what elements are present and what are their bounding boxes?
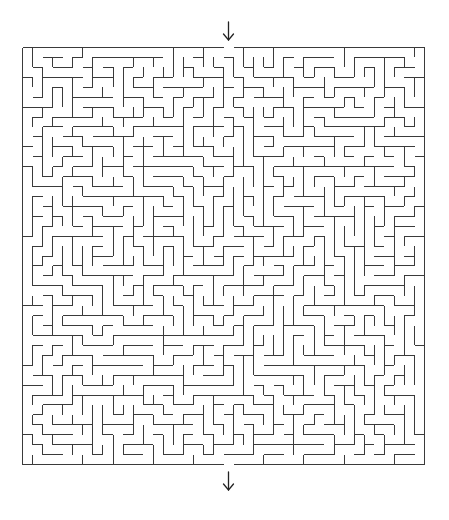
- exit-arrow-icon: [224, 472, 234, 490]
- maze-walls: [23, 48, 425, 465]
- maze-board: [0, 0, 449, 520]
- entrance-arrow-icon: [224, 22, 234, 40]
